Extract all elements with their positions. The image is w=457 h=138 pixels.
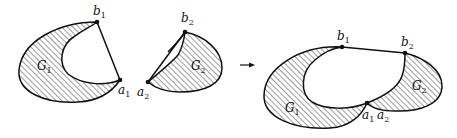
label-a1-left: a1 bbox=[118, 83, 130, 99]
g2-shape bbox=[148, 32, 222, 92]
point-b2-combined bbox=[403, 51, 408, 56]
region-gluing-diagram: b1 a1 G1 b2 a2 G2 b1 b2 a1 a2 G1 G2 bbox=[0, 0, 457, 138]
point-a1-left bbox=[118, 78, 123, 83]
point-a2-middle bbox=[146, 80, 151, 85]
transform-arrow bbox=[240, 63, 255, 68]
combined-region: b1 b2 a1 a2 G1 G2 bbox=[264, 29, 442, 128]
g1-crescent-shape bbox=[19, 22, 120, 102]
point-b1-left bbox=[95, 20, 100, 25]
region-g1-left: b1 a1 G1 bbox=[19, 4, 130, 102]
label-a1-combined: a1 bbox=[362, 108, 374, 124]
label-b2-middle: b2 bbox=[181, 11, 194, 27]
point-a1a2-combined bbox=[365, 101, 370, 106]
region-g2-middle: b2 a2 G2 bbox=[137, 11, 222, 101]
point-b2-middle bbox=[183, 30, 188, 35]
label-a2-middle: a2 bbox=[137, 85, 149, 101]
label-b2-combined: b2 bbox=[401, 35, 414, 51]
edge-b1-b2 bbox=[342, 47, 405, 53]
point-b1-combined bbox=[340, 45, 345, 50]
label-b1-left: b1 bbox=[93, 4, 106, 20]
label-b1-combined: b1 bbox=[337, 29, 350, 45]
combined-g2-shape bbox=[367, 53, 442, 111]
combined-g1-shape bbox=[264, 47, 367, 128]
g1-chord-b1-a1 bbox=[97, 22, 120, 80]
